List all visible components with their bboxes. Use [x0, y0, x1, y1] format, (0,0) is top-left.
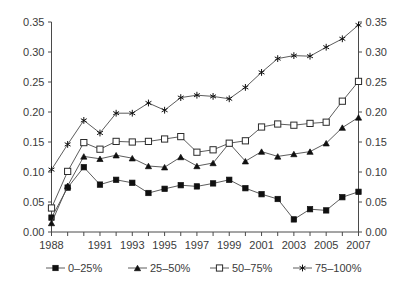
data-point-marker	[356, 189, 361, 194]
data-point-marker	[97, 146, 103, 152]
data-point-marker	[113, 138, 119, 144]
legend-label: 50–75%	[232, 262, 273, 274]
data-point-marker	[275, 196, 280, 201]
y-axis-left-tick-label: 0.20	[23, 106, 44, 118]
legend-item-3[interactable]: 50–75%	[210, 262, 273, 274]
data-point-marker	[48, 205, 54, 211]
data-point-marker	[216, 265, 222, 271]
data-point-marker	[194, 149, 200, 155]
data-point-marker	[339, 98, 345, 104]
y-axis-right: 0.000.050.100.150.200.250.300.35	[359, 16, 387, 238]
y-axis-left-tick-label: 0.00	[23, 226, 44, 238]
data-point-marker	[129, 139, 135, 145]
data-point-marker	[355, 78, 361, 84]
data-point-marker	[259, 192, 264, 197]
x-axis-tick-label: 2001	[249, 239, 273, 251]
legend-item-4[interactable]: 75–100%	[293, 262, 362, 274]
data-point-marker	[178, 134, 184, 140]
data-point-marker	[226, 140, 232, 146]
data-point-marker	[178, 183, 183, 188]
data-point-marker	[97, 182, 102, 187]
data-point-marker	[178, 154, 184, 159]
data-point-marker	[323, 119, 329, 125]
y-axis-left-tick-label: 0.25	[23, 76, 44, 88]
legend-item-2[interactable]: 25–50%	[128, 262, 191, 274]
data-point-marker	[162, 107, 168, 114]
data-point-marker	[275, 121, 281, 127]
chart-figure: 0.000.050.100.150.200.250.300.35 0.000.0…	[0, 0, 420, 284]
data-point-marker	[194, 184, 199, 189]
data-point-marker	[53, 265, 58, 270]
data-point-marker	[339, 125, 345, 130]
y-axis-left-tick-label: 0.35	[23, 16, 44, 28]
data-point-marker	[81, 165, 86, 170]
x-axis: 1988199119931995199719992001200320052007	[39, 232, 370, 251]
series-2	[48, 115, 361, 226]
data-point-marker	[48, 220, 54, 225]
data-point-marker	[242, 138, 248, 144]
y-axis-left-tick-label: 0.15	[23, 136, 44, 148]
x-axis-tick-label: 1995	[152, 239, 176, 251]
data-point-marker	[146, 190, 151, 195]
x-axis-tick-label: 1991	[88, 239, 112, 251]
data-point-marker	[323, 208, 328, 213]
data-point-marker	[291, 217, 296, 222]
data-point-marker	[227, 177, 232, 182]
data-point-marker	[339, 35, 345, 42]
y-axis-right-tick-label: 0.30	[366, 46, 387, 58]
series-layer	[48, 22, 361, 226]
y-axis-left-tick-label: 0.05	[23, 196, 44, 208]
data-point-marker	[162, 186, 167, 191]
data-point-marker	[146, 100, 152, 107]
legend-label: 25–50%	[150, 262, 191, 274]
data-point-marker	[258, 124, 264, 130]
x-axis-tick-label: 2003	[282, 239, 306, 251]
y-axis-left-tick-label: 0.30	[23, 46, 44, 58]
y-axis-right-tick-label: 0.00	[366, 226, 387, 238]
data-point-marker	[356, 22, 362, 29]
x-axis-tick-label: 1993	[120, 239, 144, 251]
data-point-marker	[323, 44, 329, 51]
x-axis-tick-label: 1999	[217, 239, 241, 251]
y-axis-right-tick-label: 0.10	[366, 166, 387, 178]
data-point-marker	[258, 149, 264, 154]
data-point-marker	[162, 136, 168, 142]
data-point-marker	[355, 115, 361, 120]
data-point-marker	[65, 168, 71, 174]
y-axis-right-tick-label: 0.15	[366, 136, 387, 148]
data-point-marker	[307, 120, 313, 126]
y-axis-left: 0.000.050.100.150.200.250.300.35	[23, 16, 51, 238]
x-axis-tick-label: 2007	[346, 239, 370, 251]
y-axis-right-tick-label: 0.05	[366, 196, 387, 208]
series-4	[49, 22, 362, 173]
x-axis-tick-label: 2005	[314, 239, 338, 251]
x-axis-tick-label: 1997	[185, 239, 209, 251]
data-point-marker	[210, 147, 216, 153]
data-point-marker	[145, 138, 151, 144]
legend-item-1[interactable]: 0–25%	[46, 262, 102, 274]
data-point-marker	[307, 207, 312, 212]
series-line	[52, 81, 359, 208]
y-axis-right-tick-label: 0.35	[366, 16, 387, 28]
series-1	[49, 165, 361, 223]
line-chart: 0.000.050.100.150.200.250.300.35 0.000.0…	[0, 0, 420, 284]
data-point-marker	[291, 122, 297, 128]
y-axis-left-tick-label: 0.10	[23, 166, 44, 178]
y-axis-right-tick-label: 0.25	[366, 76, 387, 88]
legend-label: 75–100%	[315, 262, 362, 274]
legend-label: 0–25%	[68, 262, 102, 274]
data-point-marker	[340, 195, 345, 200]
data-point-marker	[81, 140, 87, 146]
data-point-marker	[243, 186, 248, 191]
series-3	[48, 78, 361, 211]
data-point-marker	[113, 177, 118, 182]
x-axis-tick-label: 1988	[39, 239, 63, 251]
y-axis-right-tick-label: 0.20	[366, 106, 387, 118]
data-point-marker	[210, 181, 215, 186]
data-point-marker	[130, 180, 135, 185]
chart-legend: 0–25%25–50%50–75%75–100%	[46, 262, 362, 274]
